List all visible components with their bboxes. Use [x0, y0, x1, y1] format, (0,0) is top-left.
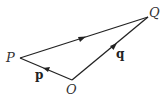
arrow-p-to-q-icon	[78, 37, 86, 43]
vector-label-q: q	[116, 47, 125, 61]
vector-label-p: p	[35, 68, 43, 82]
edge-o-q	[72, 17, 148, 80]
point-label-q: Q	[149, 5, 160, 20]
point-label-o: O	[66, 82, 77, 97]
point-label-p: P	[5, 50, 15, 65]
vector-diagram: P Q O p q	[0, 0, 167, 98]
